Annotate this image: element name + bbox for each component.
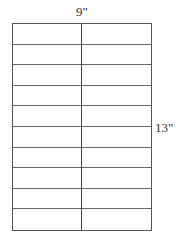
label-cell [82, 45, 151, 66]
label-cell [82, 106, 151, 127]
label-cell [82, 168, 151, 189]
width-dimension-label: 9" [0, 5, 164, 18]
label-cell [82, 65, 151, 86]
label-cell [13, 106, 82, 127]
label-cell [13, 45, 82, 66]
label-cell [13, 86, 82, 107]
label-cell [13, 65, 82, 86]
label-cell [82, 127, 151, 148]
height-dimension-label: 13" [155, 121, 173, 134]
label-cell [13, 24, 82, 45]
label-cell [13, 168, 82, 189]
label-cell [82, 209, 151, 230]
label-cell [13, 127, 82, 148]
label-cell [82, 24, 151, 45]
label-cell [13, 189, 82, 210]
label-cell [13, 209, 82, 230]
label-sheet-grid [12, 23, 152, 231]
label-cell [82, 189, 151, 210]
label-cell [13, 148, 82, 169]
label-cell [82, 86, 151, 107]
label-cell [82, 148, 151, 169]
